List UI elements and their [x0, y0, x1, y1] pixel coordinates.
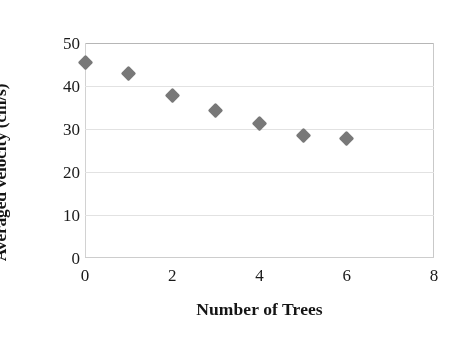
x-tick-label-2: 2: [152, 267, 192, 284]
scatter-chart-figure: Averaged velocity (cm/s) 01020304050 024…: [0, 0, 466, 345]
y-tick-label-10: 10: [46, 207, 80, 224]
data-point: [339, 131, 355, 147]
gridline-y-10: [85, 215, 434, 216]
plot-frame-bottom: [85, 257, 434, 258]
plot-frame-right: [433, 43, 434, 258]
y-axis-tick-labels: 01020304050: [44, 43, 80, 258]
plot-area: [85, 43, 434, 258]
x-axis-tick-labels: 02468: [85, 267, 434, 291]
x-tick-label-4: 4: [240, 267, 280, 284]
data-point: [121, 65, 137, 81]
data-point: [208, 102, 224, 118]
data-point: [295, 128, 311, 144]
plot-frame-left: [85, 43, 86, 258]
y-tick-label-30: 30: [46, 121, 80, 138]
y-tick-label-0: 0: [46, 250, 80, 267]
x-tick-label-6: 6: [327, 267, 367, 284]
y-tick-label-20: 20: [46, 164, 80, 181]
x-axis-title: Number of Trees: [85, 299, 434, 320]
x-tick-label-8: 8: [414, 267, 454, 284]
gridline-y-40: [85, 86, 434, 87]
y-tick-label-40: 40: [46, 78, 80, 95]
x-tick-label-0: 0: [65, 267, 105, 284]
y-tick-label-50: 50: [46, 35, 80, 52]
plot-frame-top: [85, 43, 434, 44]
data-point: [164, 87, 180, 103]
gridline-y-20: [85, 172, 434, 173]
